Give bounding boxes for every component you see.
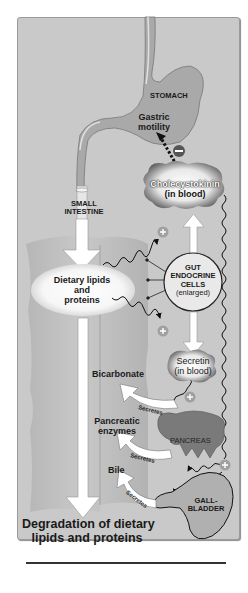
- gastric-motility-label: Gastric motility: [134, 113, 174, 133]
- plus-badge-icon: [185, 392, 196, 403]
- gallbladder-label: GALL- BLADDER: [184, 497, 228, 514]
- plus-badge-icon: [158, 227, 169, 238]
- dietary-lipids-label: Dietary lipids and proteins: [46, 276, 118, 306]
- stomach-label: STOMACH: [150, 92, 188, 100]
- plus-badge-icon: [220, 460, 231, 471]
- bile-label: Bile: [108, 466, 125, 476]
- arrow-to-cck: [183, 214, 204, 255]
- plus-badge-icon: [158, 326, 169, 337]
- bicarbonate-label: Bicarbonate: [92, 370, 144, 380]
- pancreas-label: PANCREAS: [170, 437, 211, 445]
- cholecystokinin-label: Cholecystokinin (in blood): [146, 180, 224, 200]
- gut-endocrine-cells-label: GUT ENDOCRINE CELLS (enlarged): [166, 264, 220, 297]
- degradation-label: Degradation of dietary lipids and protei…: [22, 517, 152, 546]
- arrow-to-secretin: [183, 312, 204, 355]
- bottom-rule: [26, 562, 226, 564]
- secretin-label: Secretin (in blood): [170, 357, 216, 377]
- endocrine-connectors: [146, 259, 166, 300]
- pancreatic-enzymes-label: Pancreatic enzymes: [92, 417, 142, 437]
- small-intestine-label: SMALL INTESTINE: [62, 200, 106, 217]
- minus-badge-icon: [173, 145, 185, 157]
